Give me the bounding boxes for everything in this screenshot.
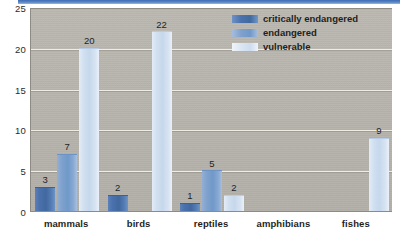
y-tick-label-25: 25 [4,3,26,14]
bar-value-label: 1 [187,191,192,201]
y-tick-label-0: 0 [4,207,26,218]
bar-chart-figure: 37202221529 0510152025 mammalsbirdsrepti… [0,0,400,245]
bar-value-label: 7 [65,142,70,152]
bar[interactable] [79,48,99,211]
bar[interactable] [152,31,172,211]
x-tick-label-birds: birds [127,218,151,229]
bar-slot-mammals-vulnerable: 20 [79,8,99,211]
bar-group-mammals: 3720 [31,8,103,211]
bar-slot-birds-critically-endangered: 2 [108,8,128,211]
legend-item-endangered: endangered [232,27,358,39]
bar[interactable] [57,154,77,211]
legend-item-critically-endangered: critically endangered [232,13,358,25]
y-tick-label-10: 10 [4,125,26,136]
bar-value-label: 2 [231,183,236,193]
bar-slot-reptiles-critically-endangered: 1 [180,8,200,211]
bar-slot-fishes-vulnerable: 9 [369,8,389,211]
bar-slot-mammals-critically-endangered: 3 [35,8,55,211]
legend-label-endangered: endangered [263,28,317,38]
bar-value-label: 3 [43,175,48,185]
legend-swatch-icon-critically-endangered [232,15,258,23]
legend-label-vulnerable: vulnerable [263,42,311,52]
bar[interactable] [108,195,128,211]
bar-value-label: 20 [84,36,95,46]
chart-legend: critically endangered endangered vulnera… [228,10,363,56]
bar-slot-birds-vulnerable: 22 [152,8,172,211]
x-tick-label-amphibians: amphibians [256,218,310,229]
bar-slot-mammals-endangered: 7 [57,8,77,211]
bar-value-label: 5 [209,159,214,169]
bar-value-label: 2 [115,183,120,193]
bar[interactable] [202,170,222,211]
y-tick-label-5: 5 [4,166,26,177]
bar[interactable] [224,195,244,211]
bar[interactable] [180,203,200,211]
legend-swatch-icon-endangered [232,29,258,37]
bar[interactable] [369,138,389,211]
x-tick-label-fishes: fishes [342,218,370,229]
y-tick-label-15: 15 [4,84,26,95]
x-tick-label-mammals: mammals [44,218,89,229]
legend-item-vulnerable: vulnerable [232,41,358,53]
bar-value-label: 9 [376,126,381,136]
bar-slot-reptiles-endangered: 5 [202,8,222,211]
x-tick-label-reptiles: reptiles [194,218,229,229]
bar-value-label: 22 [156,20,167,30]
y-tick-label-20: 20 [4,43,26,54]
bar[interactable] [35,187,55,211]
bar-slot-birds-endangered [130,8,150,211]
bar-group-birds: 222 [103,8,175,211]
legend-swatch-icon-vulnerable [232,43,258,51]
legend-label-critically-endangered: critically endangered [263,14,358,24]
